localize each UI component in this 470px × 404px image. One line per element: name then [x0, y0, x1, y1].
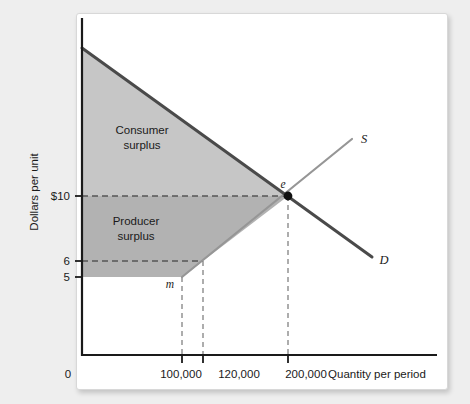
producer-surplus-region: [82, 196, 288, 277]
supply-curve-label: S: [361, 132, 368, 146]
figure-root: $10 6 5 0 100,000 120,000 200,000 Quanti…: [0, 0, 470, 404]
consumer-surplus-label-line2: surplus: [123, 139, 160, 151]
x-axis-title: Quantity per period: [328, 368, 426, 380]
equilibrium-point-marker: [284, 192, 293, 201]
producer-surplus-label-line1: Producer: [113, 215, 160, 227]
surplus-chart: $10 6 5 0 100,000 120,000 200,000 Quanti…: [0, 0, 470, 404]
consumer-surplus-label-line1: Consumer: [115, 124, 168, 136]
x-tick-label-0: 0: [65, 368, 71, 380]
demand-curve-label: D: [378, 253, 388, 267]
y-axis-title: Dollars per unit: [28, 153, 40, 231]
y-tick-label-6: 6: [64, 255, 70, 267]
y-tick-label-10: $10: [51, 190, 70, 202]
supply-origin-point-label: m: [166, 278, 174, 290]
producer-surplus-label-line2: surplus: [117, 230, 154, 242]
x-tick-label-120000: 120,000: [218, 368, 260, 380]
equilibrium-point-label: e: [280, 178, 285, 190]
y-tick-label-5: 5: [64, 271, 70, 283]
x-tick-label-200000: 200,000: [285, 368, 327, 380]
x-tick-label-100000: 100,000: [160, 368, 202, 380]
